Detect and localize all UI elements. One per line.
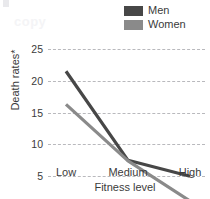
legend-item-women: Women [124,19,186,30]
legend-swatch-women [124,20,143,30]
legend-swatch-men [124,6,143,16]
y-tick-label: 25 [31,43,43,55]
x-tick-label: Medium [108,166,147,178]
x-tick-label: High [179,166,202,178]
watermark-text: copy [14,14,46,29]
legend-item-men: Men [124,5,186,16]
legend-label-men: Men [148,5,169,16]
chart-figure: copy Men Women Death rates* Fitness leve… [0,0,210,199]
x-tick-label: Low [56,166,76,178]
x-axis-title: Fitness level [45,181,205,193]
corner-artifact [3,0,9,7]
y-tick-label: 20 [31,75,43,87]
y-tick-label: 5 [37,170,43,182]
y-tick-label: 15 [31,107,43,119]
plot-area: 2520151050 LowMediumHigh [48,45,205,164]
y-axis-title: Death rates* [9,34,21,126]
chart-legend: Men Women [124,5,186,30]
legend-label-women: Women [148,19,186,30]
y-tick-label: 10 [31,138,43,150]
series-lines [48,45,205,164]
